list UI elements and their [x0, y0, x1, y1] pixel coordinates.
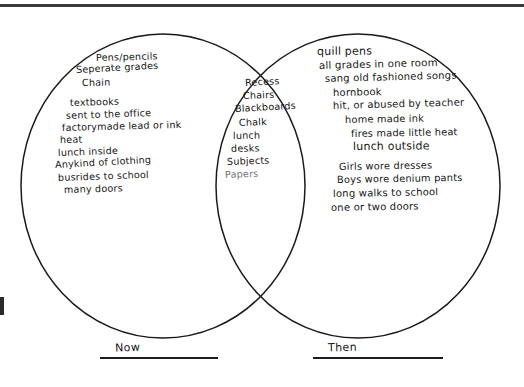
list-item: one or two doors	[331, 198, 464, 214]
label-now: Now	[115, 341, 141, 355]
label-now-underline	[100, 357, 218, 359]
list-item: Papers	[225, 166, 296, 182]
list-item: many doors	[64, 181, 182, 196]
list-item: Seperate grades	[76, 59, 182, 77]
list-item: Chalk	[239, 114, 296, 129]
list-item: lunch outside	[353, 139, 464, 154]
label-then: Then	[328, 341, 357, 355]
venn-left-region-list: Pens/pencils Seperate grades Chain textb…	[62, 52, 181, 196]
label-then-underline	[313, 357, 443, 359]
venn-right-region-list: quill pens all grades in one room sang o…	[313, 45, 464, 214]
list-item: Chain	[82, 75, 182, 89]
scanned-venn-diagram-page: Pens/pencils Seperate grades Chain textb…	[0, 0, 524, 387]
list-item: fires made little heat	[351, 125, 464, 141]
list-item: Blackboards	[235, 99, 296, 115]
venn-center-region-list: Recess Chairs Blackboards Chalk lunch de…	[233, 76, 296, 182]
list-item: home made ink	[345, 111, 464, 127]
